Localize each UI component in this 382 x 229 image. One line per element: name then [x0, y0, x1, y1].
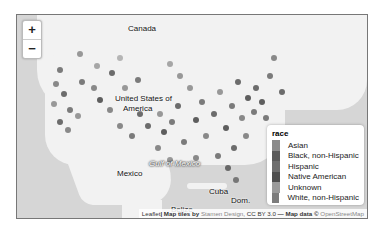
- label-cuba: Cuba: [209, 187, 228, 196]
- legend-item: White, non-Hispanic: [272, 193, 359, 204]
- legend-item: Black, non-Hispanic: [272, 151, 359, 162]
- attribution: Leaflet| Map tiles by Stamen Design, CC …: [139, 209, 367, 218]
- leaflet-link[interactable]: Leaflet: [142, 210, 161, 217]
- label-canada: Canada: [128, 24, 156, 33]
- stamen-link[interactable]: Stamen Design: [201, 210, 243, 217]
- legend-swatch: [272, 172, 280, 183]
- legend-item: Unknown: [272, 182, 359, 193]
- legend-item: Hispanic: [272, 161, 359, 172]
- label-usa-line1: United States of: [115, 94, 172, 103]
- zoom-out-button[interactable]: −: [23, 40, 41, 58]
- legend-item: Asian: [272, 140, 359, 151]
- legend-item: Native American: [272, 172, 359, 183]
- legend-swatch: [272, 193, 279, 204]
- legend-swatch: [272, 182, 280, 193]
- legend-swatch: [272, 140, 280, 151]
- zoom-control: + −: [22, 20, 42, 59]
- map-container[interactable]: Canada United States of America Mexico G…: [16, 14, 368, 219]
- label-gulf-of-mexico: Gulf of Mexico: [149, 159, 200, 168]
- legend: race Asian Black, non-Hispanic Hispanic …: [267, 125, 364, 205]
- label-dom: Dom.: [231, 196, 250, 205]
- openstreetmap-link[interactable]: OpenStreetMap: [320, 210, 364, 217]
- zoom-in-button[interactable]: +: [23, 21, 41, 40]
- legend-title: race: [272, 129, 359, 138]
- label-mexico: Mexico: [117, 169, 142, 178]
- legend-swatch: [272, 151, 280, 162]
- legend-swatch: [272, 161, 280, 172]
- label-usa-line2: America: [123, 104, 152, 113]
